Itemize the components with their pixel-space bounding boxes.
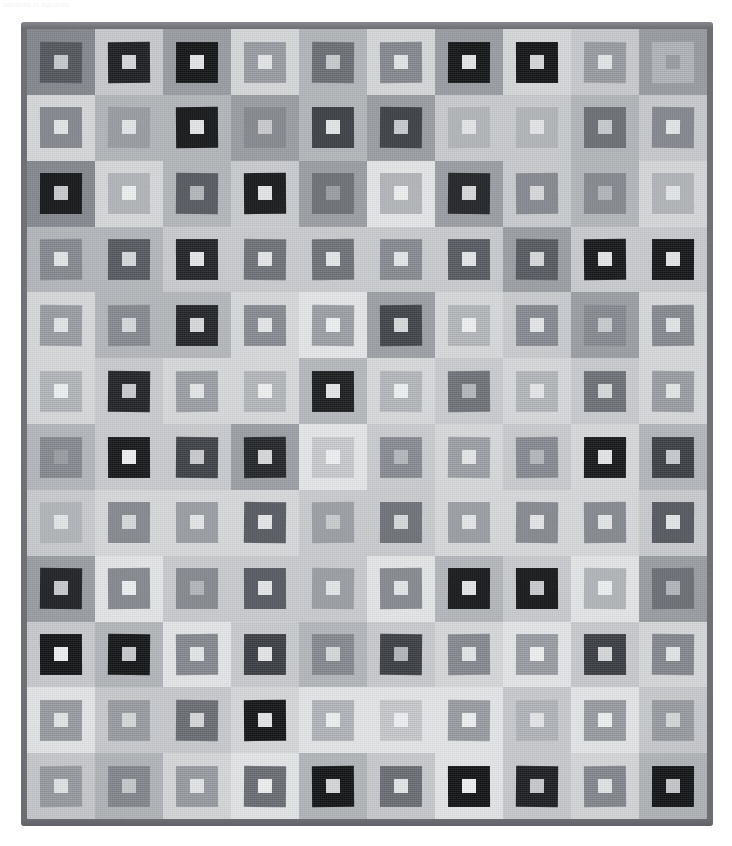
- quilt-block-center-square: [258, 318, 272, 332]
- quilt-block-center-square: [462, 121, 476, 135]
- quilt-block-center-square: [190, 779, 204, 793]
- quilt-block-middle-square: [380, 41, 422, 82]
- quilt-block-center-square: [122, 647, 136, 661]
- quilt-block-middle-square: [176, 239, 218, 280]
- quilt-block-middle-square: [312, 239, 354, 280]
- quilt-block-center-square: [258, 450, 272, 464]
- quilt-block-center-square: [190, 647, 204, 661]
- quilt-block-center-square: [190, 318, 204, 332]
- quilt-block: [435, 358, 503, 424]
- quilt-block-middle-square: [108, 173, 150, 214]
- quilt-block: [571, 95, 639, 161]
- quilt-block-center-square: [394, 55, 408, 69]
- quilt-block-center-square: [54, 121, 68, 135]
- quilt-block-center-square: [394, 582, 408, 596]
- quilt-block: [503, 95, 571, 161]
- quilt-block: [367, 161, 435, 227]
- quilt-block: [639, 556, 707, 622]
- quilt-block-center-square: [394, 121, 408, 135]
- quilt-block: [27, 424, 95, 490]
- quilt-block-center-square: [326, 121, 340, 135]
- quilt-block-middle-square: [108, 370, 151, 411]
- quilt-block-middle-square: [652, 568, 694, 609]
- quilt-block-center-square: [394, 187, 408, 201]
- quilt-block-center-square: [462, 55, 476, 69]
- quilt-block-center-square: [394, 252, 408, 266]
- quilt-block: [95, 753, 163, 819]
- quilt-block-middle-square: [108, 700, 150, 741]
- quilt-block: [367, 424, 435, 490]
- quilt-block: [299, 556, 367, 622]
- quilt-block: [299, 490, 367, 556]
- quilt-block: [27, 227, 95, 293]
- quilt-photograph: [21, 22, 713, 826]
- quilt-block-middle-square: [244, 41, 286, 82]
- quilt-block-middle-square: [584, 568, 627, 609]
- quilt-block-middle-square: [516, 502, 559, 543]
- quilt-block-middle-square: [448, 305, 490, 346]
- quilt-block-middle-square: [652, 239, 694, 280]
- quilt-block-middle-square: [40, 568, 83, 609]
- quilt-block-center-square: [666, 121, 680, 135]
- quilt-block-middle-square: [40, 305, 83, 346]
- quilt-block-middle-square: [40, 634, 82, 675]
- quilt-block-middle-square: [380, 502, 422, 543]
- quilt-block-middle-square: [40, 41, 83, 82]
- quilt-block-middle-square: [312, 634, 354, 675]
- quilt-block-center-square: [530, 55, 544, 69]
- quilt-block: [503, 161, 571, 227]
- quilt-block-middle-square: [652, 370, 695, 411]
- quilt-block-center-square: [530, 187, 544, 201]
- quilt-block-middle-square: [312, 766, 354, 807]
- quilt-block-middle-square: [584, 371, 626, 412]
- quilt-block: [299, 29, 367, 95]
- quilt-block-middle-square: [312, 371, 354, 412]
- quilt-block: [299, 424, 367, 490]
- quilt-block-middle-square: [176, 41, 218, 82]
- quilt-block-middle-square: [448, 634, 490, 675]
- quilt-block-center-square: [258, 713, 272, 727]
- quilt-block-middle-square: [40, 107, 82, 148]
- quilt-block: [299, 95, 367, 161]
- quilt-block: [27, 292, 95, 358]
- quilt-block-middle-square: [380, 239, 422, 280]
- quilt-block-center-square: [598, 582, 612, 596]
- quilt-block-middle-square: [448, 568, 490, 609]
- quilt-block: [639, 227, 707, 293]
- quilt-block-center-square: [394, 647, 408, 661]
- quilt-block: [231, 95, 299, 161]
- quilt-block: [435, 622, 503, 688]
- quilt-block-center-square: [258, 384, 272, 398]
- quilt-block-center-square: [122, 582, 136, 596]
- quilt-block-middle-square: [516, 41, 558, 82]
- quilt-block: [639, 358, 707, 424]
- quilt-block-middle-square: [312, 436, 354, 477]
- quilt-block-center-square: [462, 450, 476, 464]
- quilt-block: [571, 556, 639, 622]
- quilt-block-center-square: [462, 516, 476, 530]
- quilt-block: [503, 687, 571, 753]
- quilt-block: [231, 622, 299, 688]
- quilt-block: [435, 227, 503, 293]
- quilt-block-middle-square: [40, 700, 82, 741]
- quilt-block-middle-square: [448, 239, 490, 280]
- quilt-block-middle-square: [108, 634, 151, 675]
- quilt-block-center-square: [598, 450, 612, 464]
- quilt-block-center-square: [54, 516, 68, 530]
- quilt-block-middle-square: [380, 766, 422, 807]
- quilt-block: [639, 95, 707, 161]
- quilt-block: [163, 753, 231, 819]
- quilt-block: [367, 753, 435, 819]
- quilt-block-center-square: [666, 252, 680, 266]
- quilt-block: [163, 358, 231, 424]
- quilt-block-center-square: [598, 55, 612, 69]
- quilt-block-middle-square: [380, 370, 423, 411]
- quilt-block-center-square: [462, 384, 476, 398]
- quilt-block-middle-square: [516, 107, 558, 148]
- quilt-block-center-square: [122, 252, 136, 266]
- quilt-block-middle-square: [380, 700, 422, 741]
- quilt-block-middle-square: [652, 700, 694, 741]
- quilt-block: [299, 622, 367, 688]
- quilt-block: [571, 292, 639, 358]
- quilt-block-center-square: [326, 582, 340, 596]
